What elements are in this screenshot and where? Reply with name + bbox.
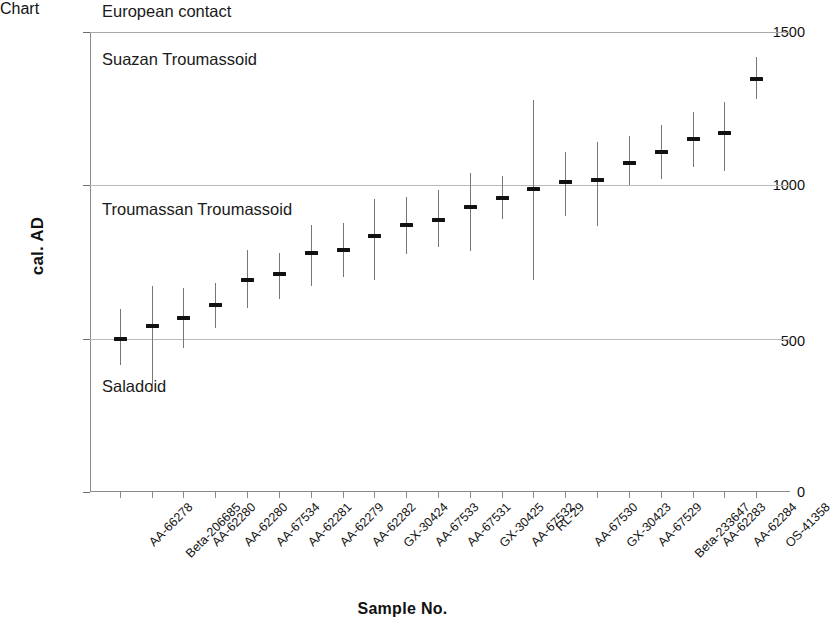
median-marker — [655, 150, 668, 154]
median-marker — [305, 251, 318, 255]
y-tick-mark-500 — [83, 339, 90, 340]
error-bar — [724, 102, 725, 171]
median-marker — [559, 180, 572, 184]
y-tick-mark-0 — [83, 492, 90, 493]
median-marker — [337, 248, 350, 252]
band-label-european-contact: European contact — [102, 2, 231, 21]
median-marker — [400, 223, 413, 227]
x-tick-mark — [438, 492, 439, 498]
x-tick-mark — [629, 492, 630, 498]
median-marker — [273, 272, 286, 276]
x-tick-mark — [374, 492, 375, 498]
median-marker — [718, 131, 731, 135]
x-tick-mark — [406, 492, 407, 498]
band-label-saladoid: Saladoid — [102, 377, 166, 396]
x-tick-mark — [152, 492, 153, 498]
error-bar — [597, 142, 598, 225]
x-tick-mark — [756, 492, 757, 498]
x-tick-mark — [724, 492, 725, 498]
median-marker — [750, 77, 763, 81]
x-tick-mark — [247, 492, 248, 498]
gridline-500 — [90, 339, 790, 340]
median-marker — [464, 205, 477, 209]
median-marker — [496, 196, 509, 200]
x-tick-mark — [597, 492, 598, 498]
band-label-troumassan: Troumassan Troumassoid — [102, 200, 292, 219]
x-axis-line — [90, 491, 790, 492]
error-bar — [374, 199, 375, 280]
x-tick-mark — [279, 492, 280, 498]
x-tick-mark — [470, 492, 471, 498]
error-bar — [279, 253, 280, 300]
median-marker — [241, 278, 254, 282]
x-tick-mark — [533, 492, 534, 498]
x-tick-mark — [215, 492, 216, 498]
x-tick-mark — [693, 492, 694, 498]
gridline-1000 — [90, 185, 790, 186]
x-tick-mark — [183, 492, 184, 498]
median-marker — [591, 178, 604, 182]
median-marker — [209, 303, 222, 307]
y-tick-mark-1000 — [83, 185, 90, 186]
error-bar — [470, 173, 471, 251]
x-tick-label: AA-66278 — [146, 500, 195, 549]
median-marker — [177, 316, 190, 320]
y-axis-title: cal. AD — [28, 186, 48, 306]
x-tick-mark — [502, 492, 503, 498]
x-tick-mark — [661, 492, 662, 498]
median-marker — [623, 161, 636, 165]
band-label-suazan: Suazan Troumassoid — [102, 50, 257, 69]
x-axis-title: Sample No. — [0, 600, 805, 618]
median-marker — [114, 337, 127, 341]
x-tick-label: RL-29 — [553, 500, 587, 534]
median-marker — [432, 218, 445, 222]
error-bar — [311, 225, 312, 286]
median-marker — [687, 137, 700, 141]
plot-area: Suazan Troumassoid Troumassan Troumassoi… — [90, 32, 790, 492]
x-tick-mark — [311, 492, 312, 498]
error-bar — [152, 286, 153, 391]
x-tick-mark — [120, 492, 121, 498]
gridline-1500 — [90, 32, 790, 33]
x-tick-mark — [565, 492, 566, 498]
median-marker — [146, 324, 159, 328]
x-tick-mark — [343, 492, 344, 498]
y-axis-line — [90, 32, 91, 492]
median-marker — [527, 187, 540, 191]
median-marker — [368, 234, 381, 238]
error-bar — [565, 152, 566, 216]
y-tick-mark-1500 — [83, 32, 90, 33]
